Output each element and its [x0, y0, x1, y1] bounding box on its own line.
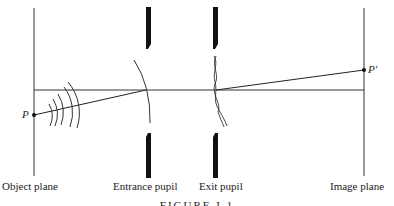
exit-pupil-stop-bottom	[213, 133, 218, 178]
entrance-pupil-label: Entrance pupil	[113, 180, 177, 192]
object-point-dot	[32, 113, 36, 117]
figure-caption: FIGURE I.1	[0, 199, 394, 206]
entrance-pupil-stop-bottom	[146, 133, 151, 178]
aberrated-wavefronts	[214, 56, 227, 127]
entrance-pupil-stop-top	[146, 7, 151, 49]
optical-system-diagram	[0, 0, 394, 206]
object-point-label: P	[22, 108, 29, 120]
image-point-label: P′	[368, 63, 377, 75]
image-plane-label: Image plane	[330, 180, 384, 192]
exit-pupil-label: Exit pupil	[199, 180, 243, 192]
image-point-dot	[362, 68, 366, 72]
exit-pupil-stop-top	[213, 7, 218, 49]
spherical-wavefronts	[49, 82, 79, 128]
ray-exit-to-image	[216, 70, 364, 90]
ray-object-to-entrance	[34, 90, 146, 115]
entrance-reference-sphere	[134, 60, 150, 123]
object-plane-label: Object plane	[2, 180, 58, 192]
